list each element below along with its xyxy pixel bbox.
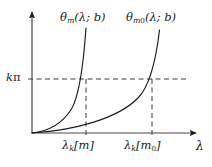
- theta-args: (λ; b): [74, 10, 105, 24]
- theta-glyph: θ: [60, 10, 67, 24]
- figure-container: θm(λ; b) θm0(λ; b) kπ λk[m] λk[m0] λ: [0, 0, 212, 167]
- curve-theta-m: [32, 28, 86, 133]
- plot-canvas: [0, 0, 212, 167]
- curve-label-theta-m: θm(λ; b): [60, 12, 106, 25]
- lambda-bracket: [m]: [74, 138, 94, 152]
- x-tick-label-lambda-k-m: λk[m]: [62, 140, 94, 153]
- lambda-bracket-open: [m: [136, 138, 151, 152]
- x-axis-label-lambda: λ: [196, 140, 204, 152]
- x-tick-label-lambda-k-m0: λk[m0]: [124, 140, 160, 153]
- theta-glyph: θ: [126, 10, 133, 24]
- curve-label-theta-m0: θm0(λ; b): [126, 12, 176, 25]
- theta-args: (λ; b): [145, 10, 176, 24]
- lambda-bracket-close: ]: [156, 138, 161, 152]
- pi-glyph: π: [13, 70, 21, 84]
- curve-theta-m0: [32, 30, 160, 133]
- k-glyph: k: [6, 70, 13, 84]
- y-tick-label-kpi: kπ: [6, 72, 21, 84]
